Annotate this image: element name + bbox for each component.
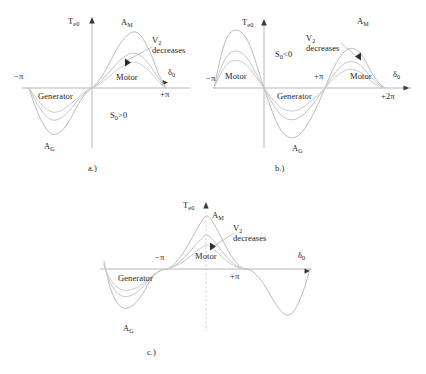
- y-axis-arrowhead-icon: [89, 17, 95, 24]
- label-v2-decreases-a: V2 decreases: [152, 36, 202, 56]
- tick-label-plus-pi-a: +π: [160, 90, 169, 99]
- label-peak-am-c: AM: [212, 211, 224, 220]
- label-generator-c: Generator: [118, 274, 153, 283]
- label-motor-a: Motor: [116, 73, 138, 82]
- panel-caption-c: c.): [147, 347, 156, 357]
- label-generator-b: Generator: [277, 92, 312, 101]
- curve-v2-low: [214, 60, 385, 111]
- tick-label-minus-pi-a: −π: [14, 72, 23, 81]
- y-axis-label-c: Te0: [183, 201, 194, 210]
- trend-arrow-icon: [355, 53, 361, 61]
- tick-label-plus-2pi-b: +2π: [381, 92, 395, 101]
- x-axis-label-a: δ0: [168, 68, 175, 77]
- label-peak-am-a: AM: [121, 18, 133, 27]
- x-axis-arrowhead-icon: [404, 86, 410, 91]
- curve-v2-low: [29, 62, 166, 112]
- panel-caption-b: b.): [275, 163, 284, 173]
- label-motor-left-b: Motor: [225, 72, 247, 81]
- x-axis-label-b: δ0: [393, 70, 400, 79]
- label-motor-c: Motor: [195, 252, 217, 261]
- panel-a: Te0 AM V2 decreases Motor δ0 −π +π Gener…: [0, 0, 213, 187]
- y-axis-arrowhead-icon: [261, 19, 267, 26]
- label-generator-a: Generator: [38, 92, 73, 101]
- label-condition-s0-b: S0<0: [275, 50, 292, 59]
- label-v2-decreases-c: V2 decreases: [233, 224, 285, 244]
- trend-leader-line: [214, 233, 234, 246]
- panel-c: Te0 AM V2 decreases Motor −π δ0 +π Gener…: [96, 183, 336, 374]
- figure-container: Te0 AM V2 decreases Motor δ0 −π +π Gener…: [0, 0, 426, 374]
- label-motor-right-b: Motor: [350, 72, 372, 81]
- curve-v2-mid: [29, 53, 166, 120]
- tick-label-minus-pi-b: −π: [206, 74, 215, 83]
- label-condition-s0-a: S0>0: [110, 111, 127, 120]
- label-v2-decreases-b: V2 decreases: [306, 34, 356, 54]
- panel-b: Te0 AM V2 decreases S0<0 Motor Motor +π …: [213, 0, 426, 187]
- tick-label-plus-pi-b: +π: [314, 72, 323, 81]
- label-trough-ag-b: AG: [292, 144, 303, 153]
- tick-label-minus-pi-c: −π: [155, 253, 164, 262]
- tick-label-plus-pi-c: +π: [230, 272, 239, 281]
- label-trough-ag-c: AG: [123, 324, 134, 333]
- label-peak-am-b: AM: [357, 17, 369, 26]
- panel-caption-a: a.): [88, 163, 97, 173]
- y-axis-label-b: Te0: [242, 18, 253, 27]
- y-axis-label-a: Te0: [68, 17, 79, 26]
- curve-v2-high: [214, 30, 385, 138]
- label-trough-ag-a: AG: [44, 142, 55, 151]
- curve-v2-low: [104, 245, 246, 290]
- panel-a-plot: [0, 0, 213, 187]
- y-axis-arrowhead-icon: [203, 202, 208, 209]
- x-axis-label-c: δ0: [298, 251, 305, 260]
